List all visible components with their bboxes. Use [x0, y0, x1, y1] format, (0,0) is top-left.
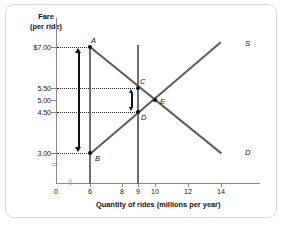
y-axis-title: Fare (per ride): [22, 12, 70, 31]
xtick-label-6: 6: [80, 187, 100, 196]
point-label-A: A: [91, 36, 96, 45]
y-axis-title-line2: (per ride): [22, 22, 70, 32]
ytick-label-5.50: 5.50: [37, 84, 51, 93]
xtick-label-10: 10: [145, 187, 165, 196]
point-C: [136, 86, 141, 91]
x-axis-title: Quantity of rides (millions per year): [96, 200, 220, 209]
xtick-label-12: 12: [178, 187, 198, 196]
ytick-4.50: [51, 112, 56, 113]
x-axis-break-icon: //: [67, 178, 74, 188]
guide-line-3.00: [57, 153, 91, 154]
point-label-C: C: [140, 77, 145, 86]
small-span-arrow-shaft: [131, 92, 133, 107]
ytick-3.00: [51, 153, 56, 154]
ytick-label-5.00: 5.00: [37, 96, 51, 105]
y-axis-line: [56, 18, 57, 184]
point-B: [88, 151, 93, 156]
ytick-label-3.00: 3.00: [37, 149, 51, 158]
point-label-E: E: [160, 97, 165, 106]
demand-curve-label: D: [245, 148, 250, 157]
guide-line-5.50: [57, 88, 139, 89]
quantity-6-line: [89, 47, 91, 184]
xtick-label-0: 0: [46, 187, 66, 196]
point-D: [136, 110, 141, 115]
guide-line-7.00: [57, 47, 91, 48]
plot-area: Fare (per ride) Quantity of rides (milli…: [0, 0, 284, 226]
ytick-5.00: [51, 100, 56, 101]
ytick-label-7.00: $7.00: [34, 43, 52, 52]
y-axis-title-line1: Fare: [22, 12, 70, 22]
small-span-arrow-head-down: [129, 107, 133, 111]
x-axis-line: [56, 183, 260, 184]
supply-curve-label: S: [245, 39, 250, 48]
xtick-label-14: 14: [211, 187, 231, 196]
guide-line-4.50: [57, 112, 139, 113]
point-label-B: B: [95, 154, 100, 163]
large-span-arrow-head-down: [75, 147, 81, 152]
ytick-label-4.50: 4.50: [37, 108, 51, 117]
ytick-7.00: [51, 47, 56, 48]
ytick-5.50: [51, 88, 56, 89]
figure: Fare (per ride) Quantity of rides (milli…: [0, 0, 284, 226]
point-label-D: D: [141, 113, 146, 122]
large-span-arrow-shaft: [78, 52, 80, 148]
